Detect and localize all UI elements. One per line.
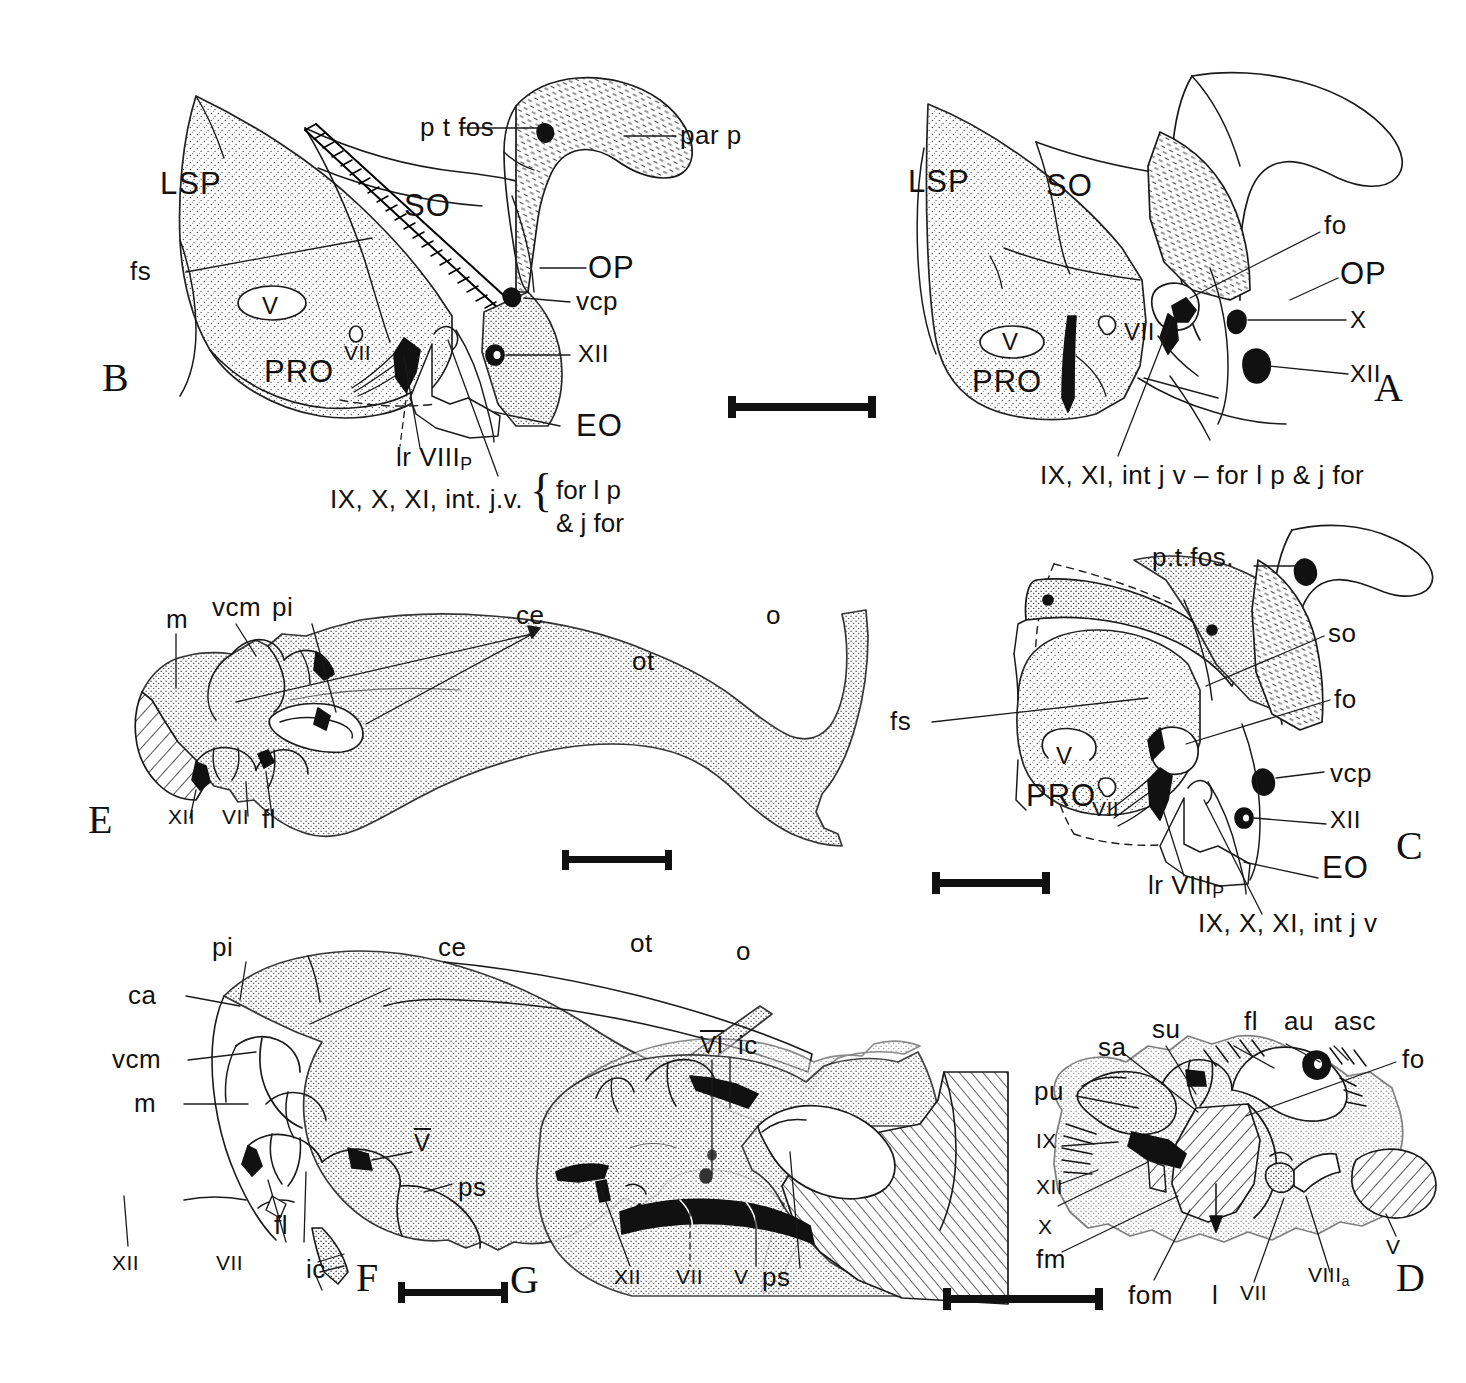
label-vii-B: VII (344, 342, 371, 363)
label-pt-fos-C: p.t.fos. (1152, 544, 1234, 570)
label-xii-C: XII (1330, 808, 1361, 832)
label-m-F: m (134, 1090, 156, 1116)
label-o-E: o (766, 602, 781, 628)
label-fl-D: fl (1244, 1008, 1258, 1034)
label-v-F: V (414, 1128, 431, 1155)
label-fo-D: fo (1402, 1046, 1425, 1072)
label-v-F-text: V (414, 1128, 431, 1155)
label-vii-A: VII (1124, 320, 1155, 344)
label-xii-D: XII (1036, 1176, 1063, 1197)
label-pt-fos-B: p t fos (420, 114, 494, 140)
panel-letter-E: E (88, 800, 112, 840)
label-fo-A: fo (1324, 212, 1347, 238)
label-fo-C: fo (1334, 686, 1357, 712)
panel-letter-C: C (1396, 826, 1423, 866)
label-ot-F: ot (630, 930, 653, 956)
label-so-B: SO (404, 190, 451, 221)
label-ps-F: ps (458, 1174, 486, 1200)
label-pi-E: pi (272, 594, 293, 620)
label-v-D: V (1386, 1236, 1401, 1257)
label-ps-G: ps (762, 1264, 790, 1290)
label-v-B: V (262, 294, 279, 318)
label-fs-B: fs (130, 258, 151, 284)
label-pro-A: PRO (972, 366, 1042, 397)
label-lr-viii-p-B-sub: P (460, 454, 472, 474)
panel-D-drawing (1054, 1036, 1436, 1242)
panel-letter-D: D (1396, 1258, 1425, 1298)
panel-letter-B: B (102, 358, 129, 398)
label-ce-E: ce (516, 602, 544, 628)
label-vii-G: VII (676, 1266, 703, 1287)
label-so-C: so (1328, 620, 1356, 646)
label-eo-B: EO (576, 410, 623, 441)
label-xii-E: XII (168, 806, 195, 827)
label-nerves-C: IX, X, XI, int j v (1198, 910, 1378, 936)
label-lr-viii-p-B: lr VIIIP (396, 444, 472, 474)
label-x-A: X (1350, 308, 1367, 332)
label-fom-D: fom (1128, 1282, 1173, 1308)
label-xii-F: XII (112, 1252, 139, 1273)
label-m-E: m (166, 606, 188, 632)
label-fm-D: fm (1036, 1246, 1066, 1272)
panel-letter-G: G (510, 1260, 539, 1300)
label-ic-F: ic (306, 1256, 326, 1282)
label-vi-G-text: VI (700, 1030, 724, 1057)
scale-bar-C (932, 872, 1050, 894)
label-op-A: OP (1340, 258, 1387, 289)
label-pro-C: PRO (1026, 780, 1096, 811)
label-nerves-A: IX, XI, int j v – for l p & j for (1040, 462, 1364, 488)
label-so-A: SO (1046, 170, 1093, 201)
label-vii-E: VII (222, 806, 249, 827)
label-xii-B: XII (578, 342, 609, 366)
label-pi-F: pi (212, 934, 233, 960)
label-ic-G: ic (738, 1032, 758, 1058)
label-pu-D: pu (1034, 1078, 1064, 1104)
label-vcm-F: vcm (112, 1046, 161, 1072)
label-lr-viii-p-B-text: lr VIII (396, 442, 460, 472)
label-fl-F: fl (274, 1212, 288, 1238)
label-l-D: l (1212, 1282, 1218, 1308)
label-ot-E: ot (632, 648, 655, 674)
label-j-for-B: & j for (556, 508, 624, 538)
label-lsp-A: LSP (908, 166, 970, 197)
label-viii-a-D: VIIIa (1308, 1264, 1350, 1288)
label-ce-F: ce (438, 934, 466, 960)
label-nerves-B: IX, X, XI, int. j.v. (330, 486, 523, 512)
label-lr-viii-p-C-sub: P (1212, 882, 1224, 902)
label-v-G: V (734, 1266, 749, 1287)
label-sa-D: sa (1098, 1034, 1126, 1060)
label-vcp-C: vcp (1330, 760, 1372, 786)
label-lr-viii-p-C: lr VIIIP (1148, 872, 1224, 902)
brace-B: { (530, 470, 552, 511)
scale-bar-E (562, 850, 672, 870)
scale-bar-F-G (398, 1282, 508, 1303)
label-xii-G: XII (614, 1266, 641, 1287)
label-eo-C: EO (1322, 852, 1369, 883)
label-fs-C: fs (890, 708, 911, 734)
label-pro-B: PRO (264, 356, 334, 387)
label-vii-D: VII (1240, 1282, 1267, 1303)
label-viii-a-D-sub: a (1342, 1273, 1350, 1289)
label-for-lp-B: for l p (556, 475, 621, 505)
label-vi-G: VI (700, 1030, 724, 1057)
label-asc-D: asc (1334, 1008, 1376, 1034)
label-su-D: su (1152, 1016, 1180, 1042)
label-par-p-B: par p (680, 122, 742, 148)
label-fl-E: fl (262, 806, 276, 832)
anatomical-figure (0, 0, 1466, 1383)
label-au-D: au (1284, 1008, 1314, 1034)
label-v-C: V (1056, 744, 1073, 768)
label-lr-viii-p-C-text: lr VIII (1148, 870, 1212, 900)
label-ca-F: ca (128, 982, 156, 1008)
label-lsp-B: LSP (160, 168, 222, 199)
scale-bar-B-A (728, 396, 876, 418)
label-vii-F: VII (216, 1252, 243, 1273)
label-viii-a-D-text: VIII (1308, 1263, 1342, 1286)
label-v-A: V (1002, 330, 1019, 354)
panel-letter-F: F (356, 1258, 378, 1298)
label-x-D: X (1038, 1216, 1053, 1237)
label-xii-A: XII (1350, 362, 1381, 386)
label-op-B: OP (588, 252, 635, 283)
label-o-F: o (736, 938, 751, 964)
label-vcp-B: vcp (576, 288, 618, 314)
